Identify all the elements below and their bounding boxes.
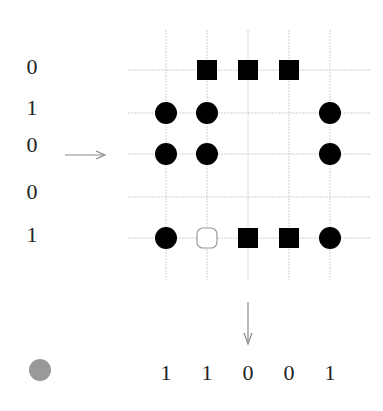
circle-marker — [155, 102, 177, 124]
circle-marker — [196, 143, 218, 165]
circle-marker — [155, 227, 177, 249]
row-label: 0 — [22, 181, 42, 203]
row-arrow — [65, 151, 105, 159]
row-label: 0 — [22, 134, 42, 156]
column-label: 0 — [279, 362, 299, 384]
circle-marker — [319, 143, 341, 165]
column-label: 1 — [320, 362, 340, 384]
circle-marker — [319, 102, 341, 124]
square-marker — [197, 60, 217, 80]
column-arrow — [244, 302, 252, 344]
legend-dot — [29, 359, 51, 381]
hollow-marker — [197, 228, 217, 248]
square-marker — [279, 228, 299, 248]
column-label: 1 — [197, 362, 217, 384]
square-marker — [279, 60, 299, 80]
column-label: 1 — [156, 362, 176, 384]
grid-diagram — [0, 0, 383, 411]
circle-marker — [196, 102, 218, 124]
square-marker — [238, 60, 258, 80]
row-label: 1 — [22, 224, 42, 246]
row-label: 0 — [22, 56, 42, 78]
square-marker — [238, 228, 258, 248]
row-label: 1 — [22, 97, 42, 119]
circle-marker — [155, 143, 177, 165]
circle-marker — [319, 227, 341, 249]
column-label: 0 — [238, 362, 258, 384]
